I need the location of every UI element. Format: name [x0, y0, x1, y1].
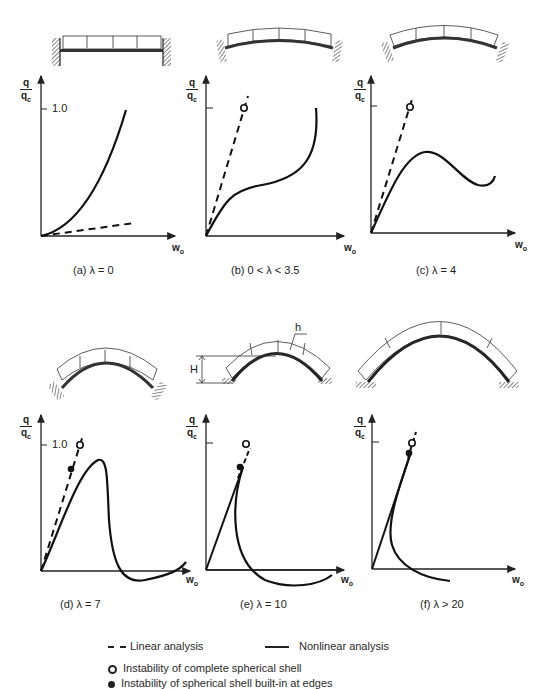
- x-axis-label-a: wo: [172, 243, 184, 257]
- y-axis-label-f: qqc: [354, 415, 366, 442]
- filled-circle-icon: [108, 681, 115, 688]
- plot-f: [372, 415, 515, 581]
- caption-e: (e) λ = 10: [240, 598, 287, 610]
- caption-b: (b) 0 < λ < 3.5: [231, 264, 299, 276]
- structure-diagram-f: [356, 322, 519, 389]
- caption-d: (d) λ = 7: [60, 598, 101, 610]
- dim-H-label: H: [190, 363, 198, 375]
- structure-diagram-e: H h: [190, 321, 332, 384]
- legend-filled-circle: Instability of spherical shell built-in …: [108, 677, 333, 689]
- plot-e: [206, 415, 344, 585]
- x-axis-label-f: wo: [512, 575, 524, 589]
- y-tick-d: 1.0: [52, 438, 67, 450]
- x-axis-label-b: wo: [344, 243, 356, 257]
- x-axis-label-d: wo: [186, 575, 198, 589]
- y-axis-label-a: qqc: [20, 78, 32, 105]
- y-axis-label-d: qqc: [20, 415, 32, 442]
- y-tick-a: 1.0: [52, 102, 67, 114]
- x-axis-label-c: wo: [515, 240, 527, 254]
- solid-line-icon: [265, 646, 289, 648]
- caption-a: (a) λ = 0: [73, 264, 114, 276]
- y-axis-label-e: qqc: [186, 415, 198, 442]
- plot-c: [371, 76, 515, 233]
- legend-nonlinear: Nonlinear analysis: [265, 640, 389, 652]
- y-axis-label-c: qqc: [354, 78, 366, 105]
- dashed-line-icon: [108, 646, 126, 648]
- legend-open-circle: Instability of complete spherical shell: [108, 662, 302, 674]
- dim-h-label: h: [295, 321, 301, 333]
- structure-diagram-c: [381, 26, 509, 63]
- y-axis-label-b: qqc: [186, 78, 198, 105]
- structure-diagram-a: [52, 36, 171, 66]
- plot-a: [41, 76, 175, 236]
- caption-f: (f) λ > 20: [420, 598, 464, 610]
- open-circle-icon: [108, 665, 117, 674]
- caption-c: (c) λ = 4: [416, 264, 456, 276]
- structure-diagram-b: [216, 28, 343, 63]
- x-axis-label-e: wo: [341, 575, 353, 589]
- plot-b: [206, 76, 344, 236]
- structure-diagram-d: [48, 348, 168, 401]
- legend-linear: Linear analysis: [108, 640, 203, 652]
